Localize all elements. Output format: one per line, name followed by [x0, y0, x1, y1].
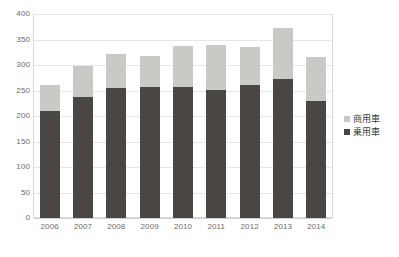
x-tick-label: 2006 — [33, 222, 66, 232]
y-tick-label: 350 — [0, 36, 30, 44]
x-tick-label: 2009 — [133, 222, 166, 232]
bar-segment-passenger[interactable] — [73, 97, 93, 218]
bar-group[interactable] — [240, 14, 260, 218]
legend-label-passenger: 乗用車 — [353, 127, 380, 137]
bar-segment-commercial[interactable] — [106, 54, 126, 88]
y-tick-label: 100 — [0, 163, 30, 171]
x-tick-label: 2007 — [66, 222, 99, 232]
y-tick-label: 250 — [0, 87, 30, 95]
bar-group[interactable] — [273, 14, 293, 218]
legend-item-passenger[interactable]: 乗用車 — [344, 126, 396, 138]
bar-segment-commercial[interactable] — [306, 57, 326, 100]
y-axis: 050100150200250300350400 — [0, 14, 30, 218]
x-tick-label: 2014 — [300, 222, 333, 232]
bar-stack — [40, 85, 60, 218]
bar-stack — [140, 56, 160, 218]
bar-stack — [273, 28, 293, 218]
bar-stack — [240, 47, 260, 218]
bar-segment-passenger[interactable] — [206, 90, 226, 218]
bar-group[interactable] — [306, 14, 326, 218]
legend-swatch-commercial-icon — [344, 116, 350, 122]
bar-stack — [173, 46, 193, 218]
legend-item-commercial[interactable]: 商用車 — [344, 113, 396, 125]
bar-segment-commercial[interactable] — [40, 85, 60, 111]
legend-swatch-passenger-icon — [344, 129, 350, 135]
bar-group[interactable] — [173, 14, 193, 218]
bar-segment-passenger[interactable] — [240, 85, 260, 218]
bar-group[interactable] — [106, 14, 126, 218]
x-tick-label: 2012 — [233, 222, 266, 232]
bar-segment-passenger[interactable] — [40, 111, 60, 218]
y-tick-label: 150 — [0, 138, 30, 146]
chart-legend: 商用車 乗用車 — [344, 113, 396, 139]
x-tick-label: 2008 — [100, 222, 133, 232]
bar-group[interactable] — [40, 14, 60, 218]
bar-segment-passenger[interactable] — [306, 101, 326, 218]
bar-stack — [106, 54, 126, 218]
x-tick-label: 2013 — [266, 222, 299, 232]
y-tick-label: 400 — [0, 10, 30, 18]
bar-segment-commercial[interactable] — [140, 56, 160, 88]
bar-segment-commercial[interactable] — [273, 28, 293, 79]
x-tick-label: 2010 — [166, 222, 199, 232]
x-axis: 200620072008200920102011201220132014 — [33, 222, 333, 236]
bar-segment-commercial[interactable] — [240, 47, 260, 85]
bar-segment-commercial[interactable] — [73, 66, 93, 97]
stacked-bar-chart: 050100150200250300350400 200620072008200… — [0, 0, 399, 257]
x-tick-label: 2011 — [200, 222, 233, 232]
bars-layer — [33, 14, 333, 218]
y-tick-label: 300 — [0, 61, 30, 69]
bar-group[interactable] — [140, 14, 160, 218]
bar-segment-commercial[interactable] — [206, 45, 226, 90]
y-tick-label: 0 — [0, 214, 30, 222]
bar-group[interactable] — [73, 14, 93, 218]
bar-stack — [306, 57, 326, 218]
bar-segment-commercial[interactable] — [173, 46, 193, 87]
bar-group[interactable] — [206, 14, 226, 218]
bar-segment-passenger[interactable] — [106, 88, 126, 218]
bar-stack — [73, 66, 93, 218]
bar-segment-passenger[interactable] — [140, 87, 160, 218]
bar-segment-passenger[interactable] — [273, 79, 293, 218]
y-tick-label: 50 — [0, 189, 30, 197]
y-tick-label: 200 — [0, 112, 30, 120]
gridline-0 — [34, 218, 332, 219]
bar-stack — [206, 45, 226, 218]
legend-label-commercial: 商用車 — [353, 114, 380, 124]
bar-segment-passenger[interactable] — [173, 87, 193, 218]
